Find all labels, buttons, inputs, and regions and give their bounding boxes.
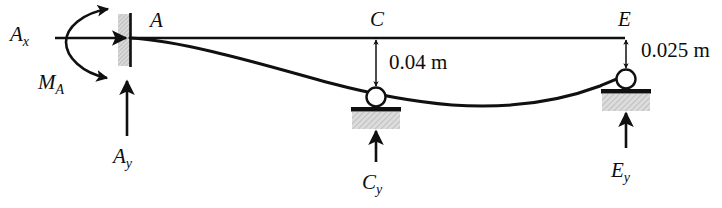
label-Ax-subscript: x	[23, 34, 29, 49]
point-label-C: C	[370, 9, 384, 30]
free-body-diagram-figure: Ax MA Ay Cy Ey A C E 0.04 m 0.025 m	[0, 0, 722, 208]
label-Ey-symbol: E	[611, 158, 624, 182]
label-MA: MA	[38, 72, 64, 93]
reaction-moment-arc-MA	[66, 9, 108, 78]
label-Ey: Ey	[611, 160, 630, 181]
label-Cy: Cy	[362, 172, 382, 193]
label-Ax: Ax	[10, 24, 29, 45]
label-Ay-subscript: y	[126, 156, 132, 171]
label-MA-subscript: A	[56, 82, 65, 97]
label-Cy-subscript: y	[376, 182, 382, 197]
fixed-wall-support-A	[118, 13, 131, 67]
roller-support-C	[351, 88, 401, 130]
label-Cy-symbol: C	[362, 170, 376, 194]
dimension-label-E: 0.025 m	[641, 40, 710, 61]
label-MA-symbol: M	[38, 70, 56, 94]
label-Ay: Ay	[113, 146, 132, 167]
dimension-label-C: 0.04 m	[389, 52, 447, 73]
point-label-A: A	[150, 10, 163, 31]
point-label-E: E	[618, 9, 631, 30]
label-Ax-symbol: A	[10, 22, 23, 46]
label-Ey-subscript: y	[624, 170, 630, 185]
label-Ay-symbol: A	[113, 144, 126, 168]
roller-support-E	[601, 70, 651, 112]
